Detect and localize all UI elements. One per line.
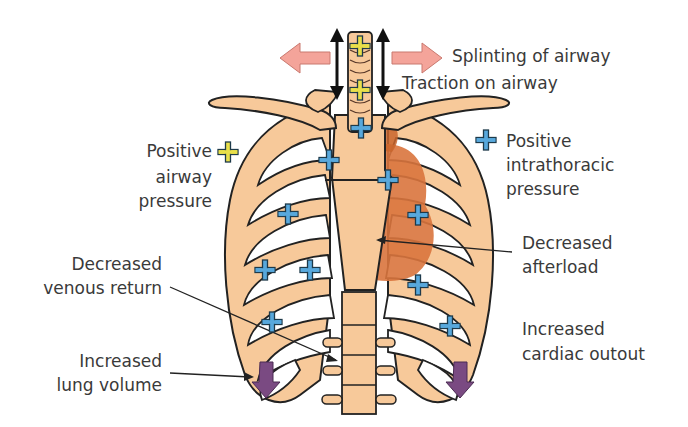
pointer-lung-volume <box>170 373 250 377</box>
splint-arrow-right <box>392 43 442 73</box>
label-line: Positive <box>506 130 572 152</box>
label-line: Decreased <box>30 253 162 275</box>
label-line: pressure <box>122 190 212 212</box>
label-traction: Traction on airway <box>402 72 558 94</box>
label-line: Increased <box>522 318 605 340</box>
label-splinting: Splinting of airway <box>452 45 610 67</box>
label-line: airway <box>122 166 212 188</box>
splint-arrow-left <box>280 43 330 73</box>
label-line: lung volume <box>30 374 162 396</box>
label-line: Decreased <box>522 232 613 254</box>
label-line: cardiac outout <box>522 343 645 365</box>
plus-icon <box>218 142 238 162</box>
label-line: Positive <box>122 140 212 162</box>
traction-arrow-right <box>376 28 390 100</box>
label-line: pressure <box>506 178 579 200</box>
label-line: Increased <box>30 350 162 372</box>
label-line: afterload <box>522 256 599 278</box>
label-line: venous return <box>30 277 162 299</box>
first-rib-left <box>306 90 338 112</box>
plus-icon <box>476 130 496 150</box>
label-line: intrathoracic <box>506 154 614 176</box>
traction-arrow-left <box>330 28 344 100</box>
